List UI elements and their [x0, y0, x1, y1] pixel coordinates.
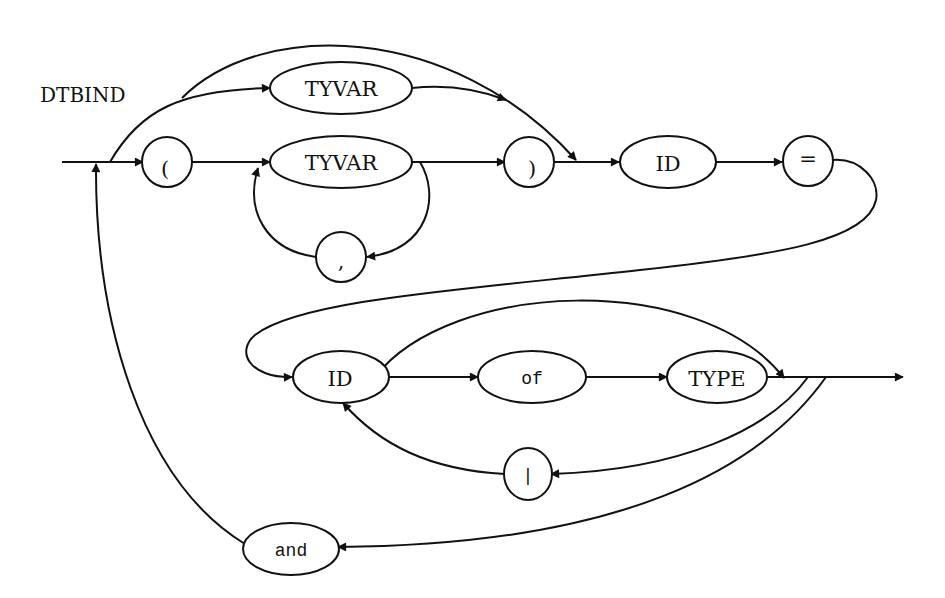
edge-tyvar-single-to-join — [412, 87, 506, 100]
edge-bar-to-id-ctor — [343, 403, 505, 474]
svg-text:of: of — [521, 369, 543, 389]
svg-text:(: ( — [161, 157, 169, 181]
svg-text:): ) — [528, 157, 536, 181]
node-bar: | — [504, 448, 552, 500]
node-rparen: ) — [504, 137, 554, 187]
syntax-diagram: DTBIND — [0, 0, 945, 598]
edge-to-and — [338, 377, 826, 547]
node-of: of — [478, 351, 586, 403]
edges — [62, 46, 903, 547]
svg-text:ID: ID — [655, 152, 680, 176]
node-id-name: ID — [620, 136, 716, 188]
node-comma: , — [316, 232, 366, 282]
node-tyvar-list: TYVAR — [270, 136, 412, 188]
diagram-title: DTBIND — [40, 83, 126, 107]
node-id-ctor: ID — [293, 351, 389, 403]
svg-text:TYVAR: TYVAR — [305, 151, 379, 175]
svg-text:=: = — [799, 147, 817, 171]
node-tyvar-single: TYVAR — [270, 62, 412, 114]
svg-text:|: | — [523, 466, 534, 486]
svg-text:TYPE: TYPE — [688, 367, 745, 391]
svg-text:and: and — [275, 541, 307, 561]
node-lparen: ( — [142, 137, 192, 187]
node-type: TYPE — [667, 351, 767, 403]
svg-text:,: , — [338, 249, 345, 273]
edge-and-to-entry — [96, 164, 245, 544]
node-and: and — [243, 523, 339, 575]
svg-text:TYVAR: TYVAR — [305, 77, 379, 101]
svg-text:ID: ID — [327, 367, 352, 391]
node-equals: = — [783, 136, 833, 186]
